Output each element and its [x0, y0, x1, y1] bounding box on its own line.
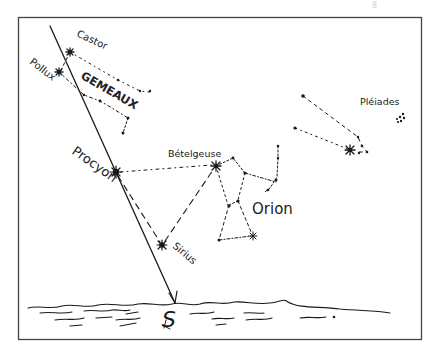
pleiades-cluster [396, 113, 405, 123]
orion-constellation [216, 146, 278, 240]
label-pollux: Pollux [28, 56, 58, 83]
star-sirius [157, 240, 167, 250]
orion-minor-stars [218, 145, 280, 242]
label-orion: Orion [252, 200, 293, 218]
procyon-sirius-line [118, 176, 160, 242]
label-betelgeuse: Bételgeuse [168, 148, 221, 159]
taurus-minor-stars [293, 94, 368, 154]
star-betelgeuse [211, 161, 221, 171]
page-number: 8 [372, 1, 377, 10]
label-pleiades: Pléiades [360, 96, 400, 107]
guide-line-arrow [50, 26, 177, 303]
star-castor [66, 48, 74, 56]
horizon-water [28, 300, 390, 326]
map-frame [19, 18, 422, 340]
procyon-betelgeuse-line [120, 165, 212, 172]
label-castor: Castor [75, 28, 110, 52]
sirius-betelgeuse-line [165, 170, 213, 241]
star-aldebaran [345, 145, 355, 155]
label-sirius: Sirius [171, 240, 199, 266]
star-rigel [249, 232, 257, 240]
star-map-diagram: 8 [0, 0, 431, 353]
taurus-constellation [295, 96, 367, 152]
